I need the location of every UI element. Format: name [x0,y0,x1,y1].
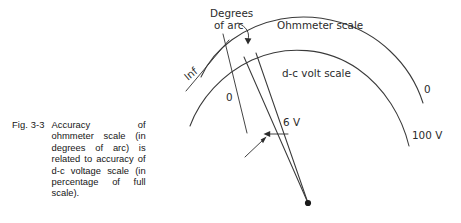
degrees-of-arc-label-line2: of arc [214,19,244,31]
figure-caption-text: Accuracy of ohmmeter scale (in degrees o… [52,119,146,199]
degrees-of-arc-label-line1: Degrees [210,7,253,19]
volt-full-scale-label: 100 V [412,129,443,141]
figure-number: Fig. 3-3 [12,119,45,130]
volt-zero-label: 0 [424,83,431,95]
gap-indicator-arrowhead [261,137,267,144]
pointer-pivot-dot [305,200,311,206]
figure-caption: Fig. 3-3 Accuracy of ohmmeter scale (in … [12,119,162,199]
figure-page: Degrees of arc Ohmmeter scale d-c volt s… [0,0,461,223]
ohm-infinity-label: Inf [182,65,200,83]
ohm-zero-label: 0 [226,91,233,103]
dc-volt-scale-label: d-c volt scale [282,67,351,79]
ohmmeter-scale-label: Ohmmeter scale [277,19,363,31]
radial-tick-degrees [223,34,247,133]
dc-volt-scale-arc [190,50,409,146]
pointer-gap-label: 6 V [283,116,301,128]
radial-tick-infinity [186,40,229,91]
gap-indicator-line [245,140,263,157]
six-volt-arrowhead [264,131,271,137]
degrees-of-arc-arrowhead [245,38,252,45]
